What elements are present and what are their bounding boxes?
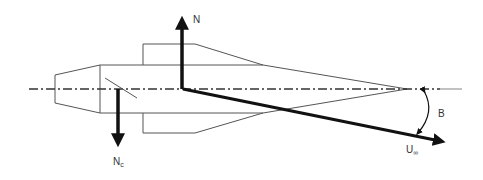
label-angle-main: B <box>438 108 445 119</box>
upper-fin <box>143 44 263 65</box>
angle-arc <box>418 91 429 133</box>
label-control-force-sub: c <box>120 161 124 168</box>
control-surface <box>105 78 137 98</box>
diagram-canvas: N Nc U∞ B <box>0 0 483 180</box>
label-angle: B <box>438 109 445 119</box>
label-control-force: Nc <box>113 157 124 168</box>
label-normal-force: N <box>193 15 200 25</box>
freestream-velocity-arrow <box>183 89 440 141</box>
label-normal-force-main: N <box>193 14 200 25</box>
label-freestream-velocity: U∞ <box>406 145 418 156</box>
lower-fin <box>143 113 263 133</box>
label-freestream-sub: ∞ <box>413 149 418 156</box>
